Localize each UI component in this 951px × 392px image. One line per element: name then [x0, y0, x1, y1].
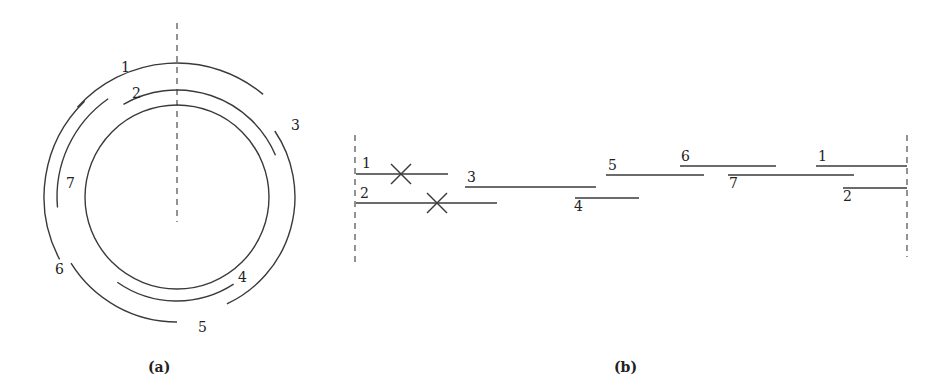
arc-label-2: 2	[132, 85, 141, 101]
arc-label-3: 3	[291, 117, 300, 133]
panel-b-linear-diagram: 123456712 (b)	[355, 135, 907, 375]
diagram-canvas: 1234567 (a) 123456712 (b)	[0, 0, 951, 392]
segment-label-2: 2	[360, 185, 369, 201]
arc-6	[44, 101, 85, 259]
segment-label-5: 5	[608, 157, 617, 173]
segment-label-3: 3	[467, 169, 476, 185]
segment-label-2r: 2	[843, 188, 852, 204]
arc-7	[57, 99, 108, 208]
segment-group	[356, 166, 907, 203]
arc-label-4: 4	[238, 269, 247, 285]
arc-label-5: 5	[198, 319, 207, 335]
segment-label-1: 1	[362, 155, 371, 171]
inner-circle	[85, 105, 269, 289]
panel-a-circular-diagram: 1234567 (a)	[44, 23, 300, 375]
cross-mark-group	[391, 164, 447, 213]
segment-label-4: 4	[574, 198, 583, 214]
segment-label-7: 7	[729, 175, 738, 191]
caption-a: (a)	[148, 359, 170, 375]
segment-label-group: 123456712	[360, 148, 852, 214]
arc-label-7: 7	[66, 175, 75, 191]
caption-b: (b)	[614, 359, 637, 375]
arc-label-6: 6	[55, 261, 64, 277]
segment-label-1r: 1	[818, 148, 827, 164]
arc-4	[117, 282, 233, 301]
arc-group	[44, 63, 295, 322]
segment-label-6: 6	[681, 148, 690, 164]
arc-label-1: 1	[121, 59, 130, 75]
